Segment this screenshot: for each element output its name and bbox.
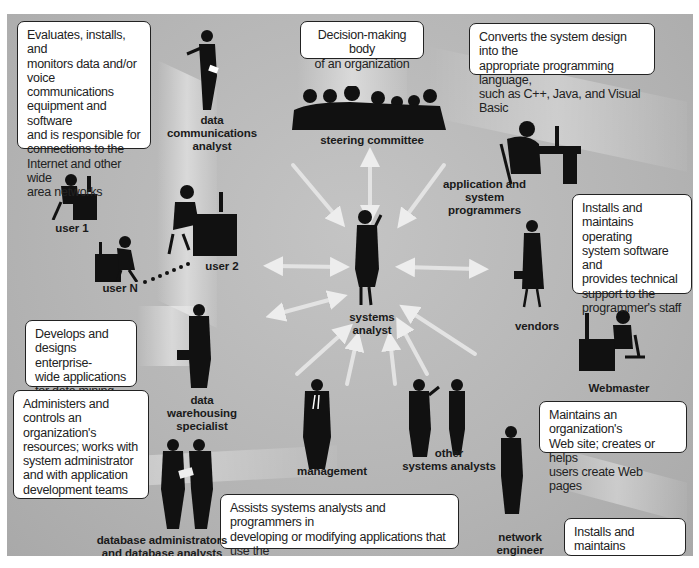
database-administrators-figure [157, 439, 221, 531]
vendors-label: vendors [507, 320, 567, 333]
systems-programmer-description: Installs and maintains operating system … [572, 194, 692, 294]
user-n-figure [95, 236, 141, 282]
programmer-figure [497, 114, 587, 184]
data-communications-analyst-description: Evaluates, installs, and monitors data a… [17, 21, 151, 149]
application-programmers-label: application and system programmers [432, 178, 537, 217]
management-label: management [287, 465, 377, 478]
webmaster-figure [579, 309, 649, 371]
data-communications-analyst-figure [185, 28, 225, 114]
systems-analyst-figure [351, 209, 387, 309]
webmaster-label: Webmaster [579, 382, 659, 395]
network-engineer-label: network engineer [485, 531, 555, 556]
diagram-canvas: Evaluates, installs, and monitors data a… [7, 14, 693, 556]
webmaster-description: Maintains an organization's Web site; cr… [539, 401, 687, 453]
other-systems-analysts-label: other systems analysts [399, 447, 499, 473]
database-administrators-description: Administers and controls an organization… [13, 390, 149, 499]
user-2-label: user 2 [197, 260, 247, 273]
network-engineer-description: Installs and maintains local area networ… [564, 518, 686, 556]
systems-analyst-label: systems analyst [337, 311, 407, 337]
data-warehousing-description: Develops and designs enterprise- wide ap… [25, 320, 137, 387]
steering-committee-label: steering committee [307, 134, 437, 147]
database-analysts-description: Assists systems analysts and programmers… [220, 494, 459, 549]
vendors-figure [512, 219, 552, 309]
data-communications-analyst-label: data communications analyst [157, 114, 267, 153]
data-warehousing-specialist-label: data warehousing specialist [157, 394, 247, 433]
management-figure [297, 379, 337, 473]
user-1-label: user 1 [47, 222, 97, 235]
user-n-label: user N [95, 282, 145, 295]
database-administrators-label: database administrators and database ana… [82, 534, 242, 556]
steering-committee-description: Decision-making body of an organization [300, 21, 424, 59]
application-programmers-description: Converts the system design into the appr… [469, 23, 655, 75]
data-warehousing-specialist-figure [177, 304, 217, 392]
steering-committee-figure [290, 86, 450, 130]
user-2-figure [167, 184, 237, 256]
